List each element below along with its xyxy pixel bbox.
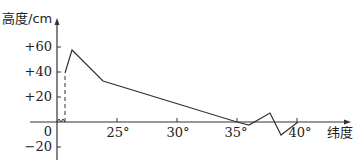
- x-axis-title: 纬度: [327, 125, 353, 140]
- y-label-0: 0: [44, 124, 52, 139]
- y-label-40: +40: [25, 64, 52, 79]
- x-label-25: 25°: [106, 125, 129, 140]
- x-label-40: 40°: [288, 125, 311, 140]
- y-label-neg20: −20: [25, 139, 52, 154]
- y-label-60: +60: [25, 39, 52, 54]
- y-axis-title: 高度/cm: [2, 11, 52, 26]
- y-label-20: +20: [25, 89, 52, 104]
- y-axis-arrow-icon: [55, 18, 60, 25]
- latitude-height-chart: 高度/cm +60 +40 +20 0 −20 25° 30° 35° 40° …: [0, 0, 361, 166]
- x-label-30: 30°: [166, 125, 189, 140]
- x-label-35: 35°: [224, 125, 247, 140]
- x-axis-arrow-icon: [344, 120, 351, 125]
